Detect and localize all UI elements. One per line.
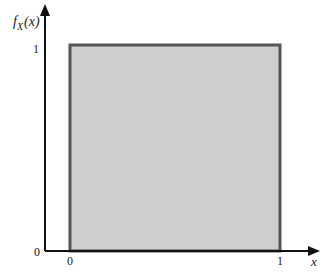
x-axis-label: x [310, 254, 317, 269]
density-region [70, 45, 280, 251]
x-tick-1: 1 [277, 254, 283, 268]
y-tick-1: 1 [33, 42, 39, 56]
pdf-chart: fX(x) 1 0 0 1 x [0, 0, 331, 275]
y-axis-arrow-icon [40, 4, 50, 16]
y-axis-label: fX(x) [13, 14, 40, 32]
x-tick-0: 0 [67, 254, 73, 268]
y-tick-0: 0 [34, 245, 40, 259]
